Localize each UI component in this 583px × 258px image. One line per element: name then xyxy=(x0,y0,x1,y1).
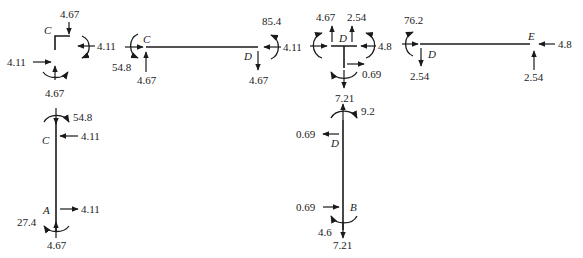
member-de-left-label: D xyxy=(427,48,436,60)
joint-c-bottom-force: 4.67 xyxy=(45,87,65,99)
member-de-right-hforce: 4.8 xyxy=(558,38,572,50)
member-ca-bottom-label: A xyxy=(42,204,50,216)
joint-c-right-force: 4.11 xyxy=(97,40,116,52)
member-cd-right-label: D xyxy=(243,50,252,62)
moment-arrow-ccw xyxy=(131,34,138,58)
member-cd-right-hforce: 4.11 xyxy=(283,41,302,53)
member-ca-bottom-reaction: 4.67 xyxy=(47,239,67,251)
frame-fbd-diagram: C 4.67 4.11 4.11 4.67 54.8 C 4.11 A 4.11… xyxy=(0,0,583,258)
member-db-top-label: D xyxy=(330,137,339,149)
member-db-bottom-label: B xyxy=(350,201,357,213)
member-db-bottom-moment: 4.6 xyxy=(318,226,332,238)
member-cd-fbd: C 54.8 4.67 D 4.67 4.11 85.4 xyxy=(112,15,302,86)
moment-arrow-ccw xyxy=(331,216,357,223)
joint-d-right-force: 4.8 xyxy=(378,40,392,52)
joint-d-body xyxy=(331,46,357,68)
joint-c-top-force: 4.67 xyxy=(60,8,80,20)
joint-d-label: D xyxy=(338,32,347,44)
member-ca-top-force: 4.11 xyxy=(81,130,100,142)
member-ca-top-label: C xyxy=(42,134,50,146)
member-de-fbd: 76.2 D 2.54 E 4.8 2.54 xyxy=(402,14,572,83)
member-cd-right-vforce: 4.67 xyxy=(249,74,269,86)
member-de-right-label: E xyxy=(527,30,535,42)
joint-d-up-left-force: 4.67 xyxy=(316,11,336,23)
moment-arrow-cw xyxy=(82,36,89,58)
joint-d-up-right-force: 2.54 xyxy=(347,11,367,23)
moment-arrow-cw xyxy=(331,111,357,118)
joint-c-body xyxy=(55,36,70,50)
member-cd-right-moment: 85.4 xyxy=(262,15,282,27)
member-de-right-vforce: 2.54 xyxy=(524,71,544,83)
member-db-bottom-hforce: 0.69 xyxy=(296,201,316,213)
joint-c-left-force: 4.11 xyxy=(7,56,26,68)
joint-d-fbd: D 4.67 2.54 4.8 0.69 7.21 xyxy=(310,11,392,104)
member-db-top-hforce: 0.69 xyxy=(296,128,316,140)
joint-c-label: C xyxy=(44,24,52,36)
member-db-bottom-vforce: 7.21 xyxy=(333,239,352,251)
member-ca-top-moment: 54.8 xyxy=(73,111,93,123)
member-ca-fbd: 54.8 C 4.11 A 4.11 27.4 4.67 xyxy=(17,108,100,251)
member-ca-bottom-force: 4.11 xyxy=(81,203,100,215)
member-de-left-vforce: 2.54 xyxy=(410,70,430,82)
member-db-fbd: 9.2 0.69 D 0.69 B 4.6 7.21 xyxy=(296,104,375,251)
member-cd-left-moment: 54.8 xyxy=(112,61,132,73)
member-db-top-moment: 9.2 xyxy=(361,105,375,117)
joint-d-stem-force: 0.69 xyxy=(362,68,382,80)
member-cd-left-label: C xyxy=(143,33,151,45)
joint-c-fbd: C 4.67 4.11 4.11 4.67 xyxy=(7,8,116,99)
joint-d-down-force: 7.21 xyxy=(335,92,354,104)
member-cd-left-vforce: 4.67 xyxy=(137,74,157,86)
member-ca-bottom-moment: 27.4 xyxy=(17,216,37,228)
member-de-left-moment: 76.2 xyxy=(404,14,423,26)
